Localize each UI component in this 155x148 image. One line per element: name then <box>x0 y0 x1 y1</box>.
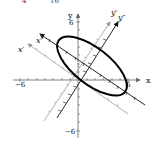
rotated-ellipse-figure: 4 16 x −6 6 <box>0 0 155 148</box>
top-equation-fragment: 4 16 <box>22 0 59 5</box>
x-double-prime-axis: x″ <box>36 34 145 105</box>
y-prime-label: y′ <box>110 8 118 17</box>
x-axis-label: x <box>146 76 151 85</box>
x-double-prime-label: x″ <box>36 36 44 45</box>
y-min-label: −6 <box>65 128 76 136</box>
rotated-ellipse <box>48 26 136 106</box>
y-double-prime-label: y″ <box>117 13 126 22</box>
fragment-left: 4 <box>22 0 27 5</box>
x-prime-axis: x′ <box>18 44 128 114</box>
y-prime-axis: y′ <box>44 8 118 121</box>
y-double-prime-axis: y″ <box>57 13 126 118</box>
x-prime-label: x′ <box>18 45 25 54</box>
x-min-label: −6 <box>15 81 26 89</box>
y-max-label: 6 <box>69 19 74 27</box>
fragment-right: 16 <box>50 0 59 5</box>
